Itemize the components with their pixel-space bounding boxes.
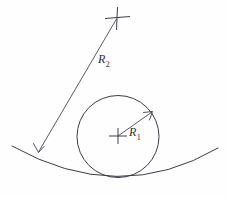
geometry-canvas [0, 0, 228, 197]
arc-center-cross-icon [105, 7, 130, 30]
label-r1-base: R [129, 125, 136, 139]
circle-center-cross-icon [109, 128, 127, 144]
label-r1: R1 [129, 126, 140, 141]
label-r2: R2 [98, 53, 109, 68]
label-r1-subscript: 1 [137, 133, 141, 142]
large-arc-path [12, 146, 218, 177]
geometry-diagram: R2 R1 [0, 0, 228, 197]
label-r2-base: R [98, 52, 105, 66]
label-r2-subscript: 2 [106, 60, 110, 69]
